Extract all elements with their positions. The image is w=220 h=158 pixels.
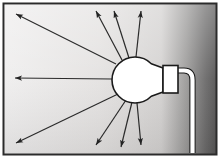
bulb-socket <box>163 66 178 94</box>
illustration-canvas <box>0 0 220 158</box>
light-bulb-illustration <box>0 0 220 158</box>
